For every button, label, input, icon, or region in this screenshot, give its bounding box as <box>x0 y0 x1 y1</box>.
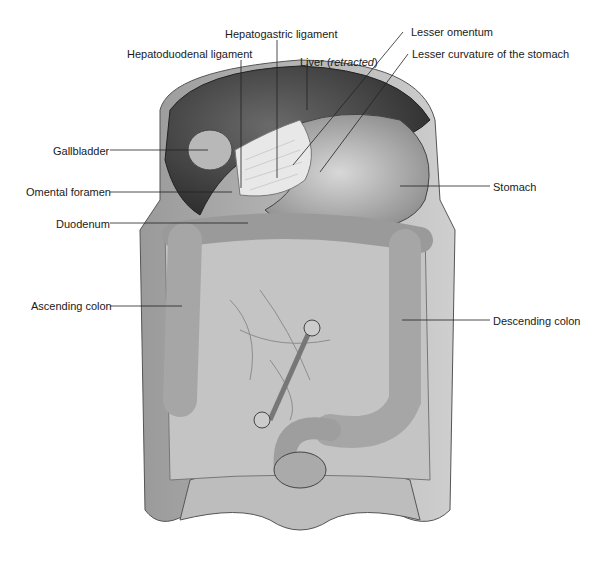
label-duodenum: Duodenum <box>56 218 110 230</box>
label-ascending-colon: Ascending colon <box>31 300 112 312</box>
label-hepatogastric-ligament: Hepatogastric ligament <box>225 28 338 40</box>
label-hepatoduodenal-ligament: Hepatoduodenal ligament <box>127 48 252 60</box>
label-omental-foramen: Omental foramen <box>26 186 111 198</box>
label-descending-colon: Descending colon <box>493 315 580 327</box>
label-liver: Liver (retracted) <box>300 56 378 68</box>
ascending-colon <box>180 240 185 400</box>
label-gallbladder: Gallbladder <box>53 145 109 157</box>
label-stomach: Stomach <box>493 181 536 193</box>
bladder <box>274 452 326 488</box>
transverse-colon <box>175 226 420 240</box>
label-lesser-omentum: Lesser omentum <box>411 26 493 38</box>
abdomen-illustration <box>0 0 596 574</box>
label-lesser-curvature: Lesser curvature of the stomach <box>412 48 569 60</box>
